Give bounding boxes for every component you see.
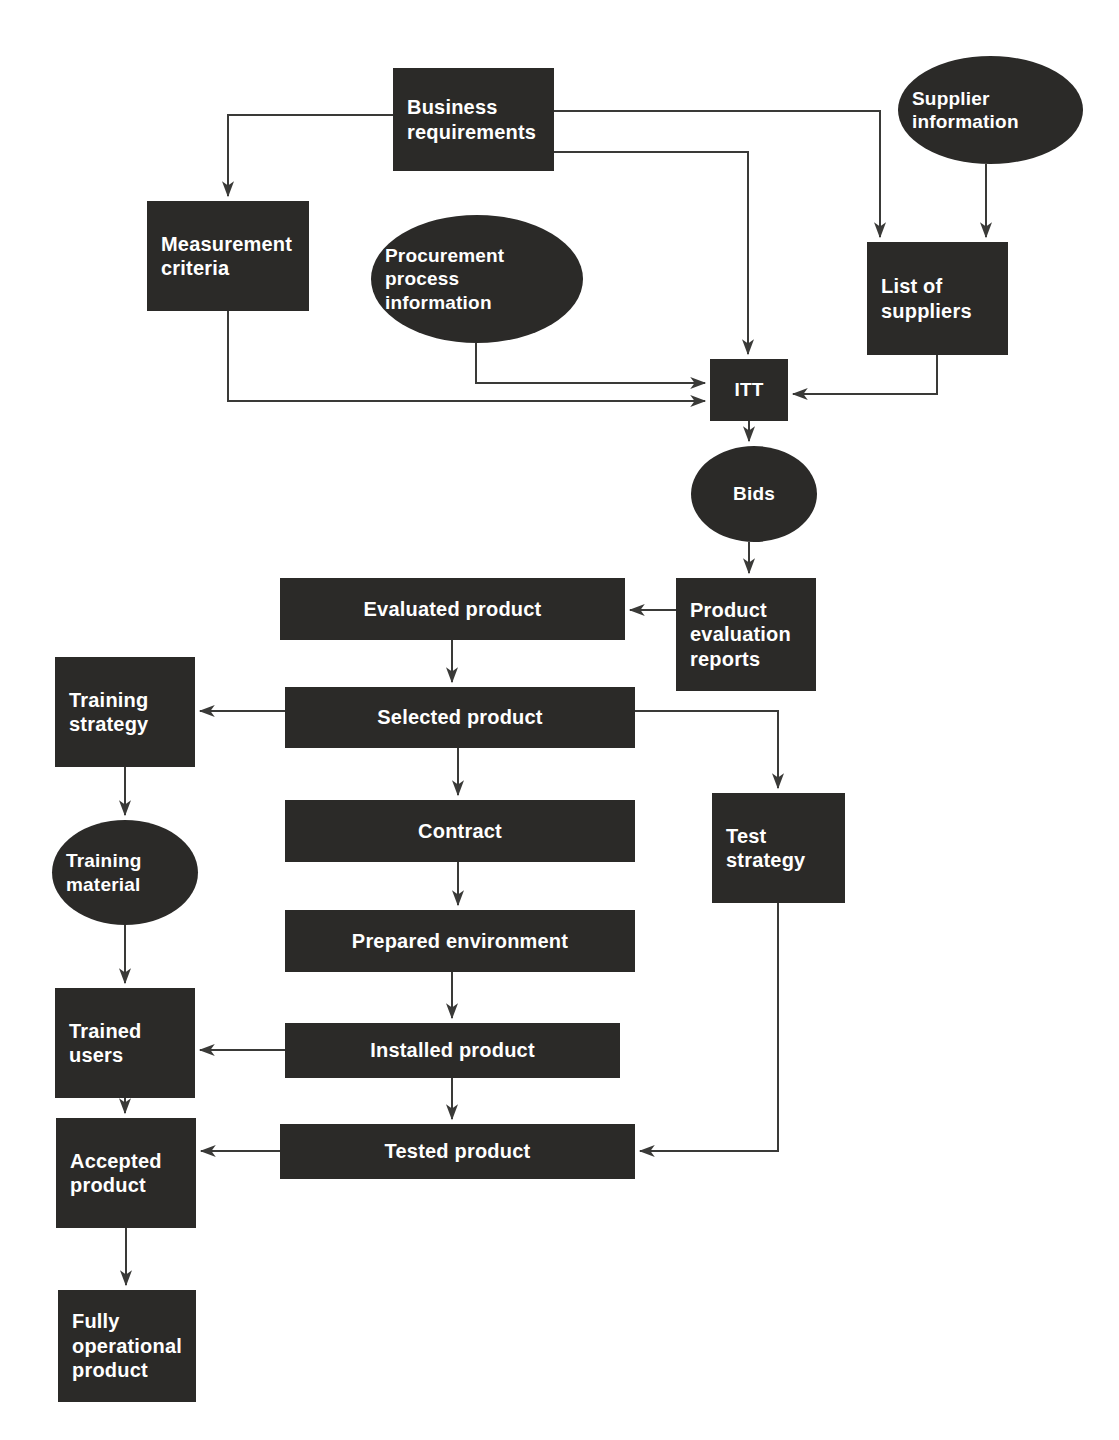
node-itt[interactable]: ITT xyxy=(710,359,788,421)
node-label-tested-product: Tested product xyxy=(280,1139,635,1163)
connector-procurement-process-information-to-itt xyxy=(476,343,705,383)
node-training-strategy[interactable]: Trainingstrategy xyxy=(55,657,195,767)
node-test-strategy[interactable]: Teststrategy xyxy=(712,793,845,903)
node-label-itt: ITT xyxy=(710,378,788,401)
node-procurement-process-information[interactable]: Procurementprocessinformation xyxy=(371,215,583,343)
node-label-test-strategy: Teststrategy xyxy=(726,824,845,873)
node-training-material[interactable]: Trainingmaterial xyxy=(52,820,198,925)
node-label-training-material: Trainingmaterial xyxy=(66,849,198,895)
node-list-of-suppliers[interactable]: List ofsuppliers xyxy=(867,242,1008,355)
connector-business-requirements-to-itt xyxy=(554,152,748,354)
diagram-canvas: BusinessrequirementsSupplierinformationM… xyxy=(0,0,1119,1440)
node-label-business-requirements: Businessrequirements xyxy=(407,95,554,144)
node-label-trained-users: Trainedusers xyxy=(69,1019,195,1068)
node-label-fully-operational-product: Fullyoperationalproduct xyxy=(72,1309,196,1382)
node-selected-product[interactable]: Selected product xyxy=(285,687,635,748)
node-evaluated-product[interactable]: Evaluated product xyxy=(280,578,625,640)
node-label-list-of-suppliers: List ofsuppliers xyxy=(881,274,1008,323)
node-accepted-product[interactable]: Acceptedproduct xyxy=(56,1118,196,1228)
node-fully-operational-product[interactable]: Fullyoperationalproduct xyxy=(58,1290,196,1402)
node-installed-product[interactable]: Installed product xyxy=(285,1023,620,1078)
node-contract[interactable]: Contract xyxy=(285,800,635,862)
node-tested-product[interactable]: Tested product xyxy=(280,1124,635,1179)
node-label-installed-product: Installed product xyxy=(285,1038,620,1062)
node-label-evaluated-product: Evaluated product xyxy=(280,597,625,621)
node-bids[interactable]: Bids xyxy=(691,446,817,542)
node-prepared-environment[interactable]: Prepared environment xyxy=(285,910,635,972)
connector-business-requirements-to-measurement-criteria xyxy=(228,115,393,196)
node-label-accepted-product: Acceptedproduct xyxy=(70,1149,196,1198)
node-measurement-criteria[interactable]: Measurementcriteria xyxy=(147,201,309,311)
node-trained-users[interactable]: Trainedusers xyxy=(55,988,195,1098)
node-label-procurement-process-information: Procurementprocessinformation xyxy=(385,244,583,314)
node-label-measurement-criteria: Measurementcriteria xyxy=(161,232,309,281)
connector-selected-product-to-test-strategy xyxy=(635,711,778,788)
connector-list-of-suppliers-to-itt xyxy=(793,355,937,394)
node-label-bids: Bids xyxy=(691,482,817,505)
node-business-requirements[interactable]: Businessrequirements xyxy=(393,68,554,171)
node-supplier-information[interactable]: Supplierinformation xyxy=(898,56,1083,164)
connector-test-strategy-to-tested-product xyxy=(640,903,778,1151)
node-label-supplier-information: Supplierinformation xyxy=(912,87,1083,133)
node-label-product-evaluation-reports: Productevaluationreports xyxy=(690,598,816,671)
node-product-evaluation-reports[interactable]: Productevaluationreports xyxy=(676,578,816,691)
node-label-selected-product: Selected product xyxy=(285,705,635,729)
node-label-prepared-environment: Prepared environment xyxy=(285,929,635,953)
node-label-training-strategy: Trainingstrategy xyxy=(69,688,195,737)
node-label-contract: Contract xyxy=(285,819,635,843)
connector-business-requirements-to-list-of-suppliers xyxy=(554,111,880,237)
